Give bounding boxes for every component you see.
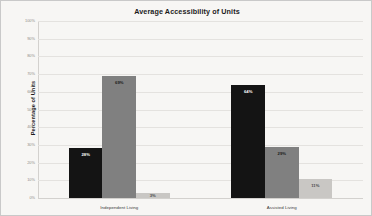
y-axis-tick-label: 80% [27,54,35,58]
chart-title: Average Accessibility of Units [1,7,372,16]
y-axis-tick-label: 70% [27,72,35,76]
y-axis-tick-label: 10% [27,178,35,182]
gridline [38,198,363,199]
bar-group: 64%29%11%Assisted Living [231,21,332,198]
y-axis-tick-label: 40% [27,125,35,129]
y-axis-tick-label: 30% [27,143,35,147]
y-axis-tick-label: 20% [27,161,35,165]
y-axis-tick-label: 100% [25,19,35,23]
chart-figure: Average Accessibility of Units Percentag… [0,0,372,216]
bar-value-label: 64% [231,90,265,94]
bar-value-label: 11% [299,184,333,188]
bar-group: 28%69%3%Independent Living [69,21,170,198]
bar-value-label: 28% [69,153,103,157]
y-axis-tick-label: 90% [27,37,35,41]
x-axis-category-label: Independent Living [69,205,170,210]
y-axis-tick-label: 0% [29,196,35,200]
bar-value-label: 3% [136,194,170,198]
bar[interactable]: 69% [102,76,136,198]
bar[interactable]: 64% [231,85,265,198]
bar-value-label: 69% [102,81,136,85]
bar[interactable]: 11% [299,179,333,198]
y-axis-tick-label: 60% [27,90,35,94]
bar[interactable]: 29% [265,147,299,198]
bar[interactable]: 3% [136,193,170,198]
x-axis-category-label: Assisted Living [231,205,332,210]
plot-area: 0%10%20%30%40%50%60%70%80%90%100% 28%69%… [38,21,363,198]
y-axis-tick-label: 50% [27,108,35,112]
bar-value-label: 29% [265,152,299,156]
bar[interactable]: 28% [69,148,103,198]
